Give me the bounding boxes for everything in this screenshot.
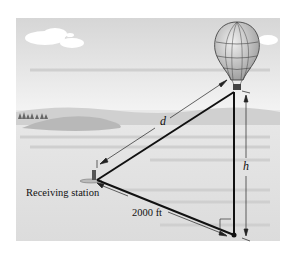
ground-point [232, 233, 237, 238]
station-label: Receiving station [26, 188, 99, 199]
height-label: h [243, 160, 249, 172]
basket [233, 84, 241, 90]
hypotenuse-label: d [160, 115, 166, 127]
ground-distance-label: 2000 ft [132, 208, 162, 219]
balloon-diagram: Receiving station 2000 ft d h [0, 0, 297, 255]
